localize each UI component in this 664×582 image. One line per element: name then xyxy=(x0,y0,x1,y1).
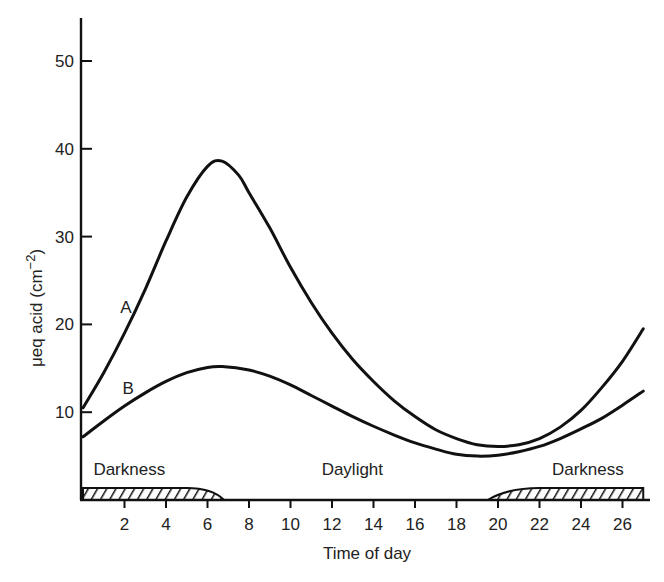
darkness-band xyxy=(83,488,224,500)
y-tick-label: 20 xyxy=(55,315,74,334)
x-tick-label: 22 xyxy=(530,515,549,534)
x-tick-label: 14 xyxy=(364,515,383,534)
region-label-daylight: Daylight xyxy=(322,460,384,479)
x-ticks: 2468101214161820222426 xyxy=(120,500,632,534)
region-label-darkness: Darkness xyxy=(552,460,624,479)
region-label-darkness: Darkness xyxy=(93,460,165,479)
series-label-B: B xyxy=(122,379,133,398)
x-tick-label: 26 xyxy=(613,515,632,534)
x-axis-label: Time of day xyxy=(323,544,412,563)
x-tick-label: 24 xyxy=(572,515,591,534)
y-tick-label: 50 xyxy=(55,52,74,71)
y-axis-label-main: μeq acid (cm xyxy=(27,269,46,367)
annotations: ABDarknessDaylightDarkness xyxy=(93,298,623,479)
curve-B xyxy=(83,366,643,456)
y-axis-label: μeq acid (cm−2) xyxy=(23,249,46,367)
darkness-band xyxy=(488,488,644,500)
y-axis-label-sup: −2 xyxy=(23,255,38,270)
curves xyxy=(83,160,643,456)
x-tick-label: 4 xyxy=(161,515,170,534)
x-tick-label: 12 xyxy=(323,515,342,534)
chart: 1020304050 2468101214161820222426 ABDark… xyxy=(0,0,664,582)
darkness-bands xyxy=(83,488,643,500)
y-tick-label: 40 xyxy=(55,140,74,159)
x-tick-label: 16 xyxy=(406,515,425,534)
x-tick-label: 6 xyxy=(203,515,212,534)
x-tick-label: 8 xyxy=(244,515,253,534)
x-tick-label: 2 xyxy=(120,515,129,534)
x-tick-label: 10 xyxy=(281,515,300,534)
curve-A xyxy=(83,160,643,446)
series-label-A: A xyxy=(120,298,132,317)
y-ticks: 1020304050 xyxy=(55,52,92,422)
y-tick-label: 30 xyxy=(55,228,74,247)
y-axis-label-close: ) xyxy=(27,249,46,255)
x-tick-label: 20 xyxy=(489,515,508,534)
y-tick-label: 10 xyxy=(55,403,74,422)
x-tick-label: 18 xyxy=(447,515,466,534)
